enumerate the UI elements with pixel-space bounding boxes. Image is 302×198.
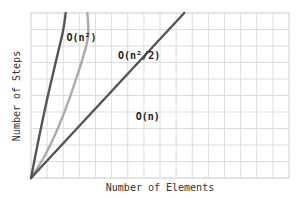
- y-axis-label: Number of Steps: [11, 51, 22, 141]
- series-label: O(n): [136, 111, 160, 122]
- complexity-chart: O(n²)O(n²/2)O(n) Number of Elements Numb…: [0, 0, 302, 198]
- series-label: O(n²): [66, 32, 96, 43]
- series-label: O(n²/2): [118, 50, 160, 61]
- x-axis-label: Number of Elements: [106, 182, 214, 193]
